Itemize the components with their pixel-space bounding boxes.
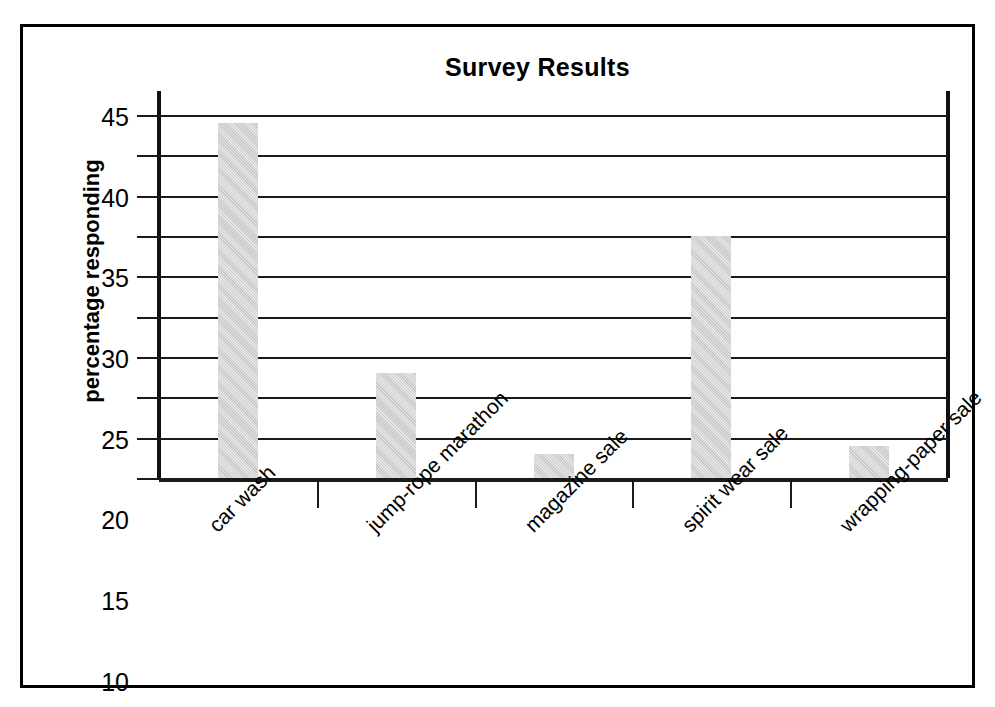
y-axis-tick-label: 25 [101,427,129,452]
y-axis-tick-label: 30 [101,347,129,372]
y-axis-tick: 25 [137,276,159,278]
y-axis-tick-label: 15 [101,589,129,614]
gridline [159,317,948,319]
y-axis-tick: 15 [137,357,159,359]
gridline [159,236,948,238]
y-axis-line [157,91,161,478]
y-axis-tick: 35 [137,196,159,198]
y-axis-tick: 45 [137,115,159,117]
bar [691,236,731,478]
chart-frame: Survey Results percentage responding 051… [20,24,975,688]
y-axis-tick: 10 [137,397,159,399]
gridline [159,196,948,198]
bar [376,373,416,478]
gridline [159,155,948,157]
gridline [159,438,948,440]
plot-area: 051015202530354045 car washjump-rope mar… [159,115,948,478]
gridline [159,397,948,399]
y-axis-tick: 20 [137,317,159,319]
y-axis-tick: 40 [137,155,159,157]
category-separator [475,478,477,508]
gridline [159,115,948,117]
y-axis-tick: 5 [137,438,159,440]
bar [218,123,258,478]
y-axis-tick: 0 [137,478,159,480]
y-axis-tick-label: 20 [101,508,129,533]
y-axis-tick-label: 35 [101,266,129,291]
y-axis-tick-label: 40 [101,185,129,210]
category-separator [632,478,634,508]
gridline [159,276,948,278]
y-axis-tick-label: 10 [101,669,129,694]
category-separator [317,478,319,508]
category-separator [790,478,792,508]
y-axis-tick-label: 45 [101,105,129,130]
gridline [159,357,948,359]
chart-title: Survey Results [23,53,972,82]
y-axis-tick: 30 [137,236,159,238]
